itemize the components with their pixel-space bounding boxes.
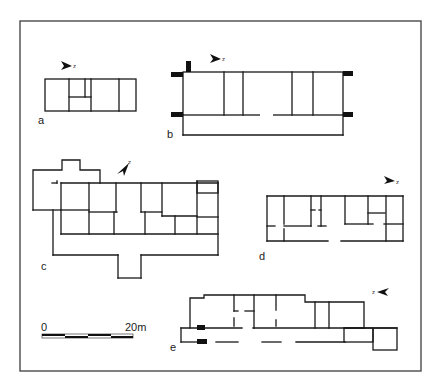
north-label: z xyxy=(396,179,399,185)
plan-b: z b xyxy=(167,54,353,140)
plan-label-b: b xyxy=(167,128,173,140)
north-arrow-icon: z xyxy=(384,176,399,185)
north-label: z xyxy=(73,63,76,69)
scale-bar-segment xyxy=(65,336,88,338)
scale-bar-segment xyxy=(88,334,111,336)
plan-label-d: d xyxy=(259,250,265,262)
scale-end-label: 20m xyxy=(125,321,146,333)
north-label: z xyxy=(222,56,225,62)
plan-label-a: a xyxy=(38,114,45,126)
north-label: z xyxy=(372,289,375,295)
plan-a: z a xyxy=(38,61,136,126)
plan-d: z d xyxy=(259,176,403,262)
scale-start-label: 0 xyxy=(41,321,47,333)
north-arrow-icon: z xyxy=(61,61,76,70)
plan-label-e: e xyxy=(170,341,176,353)
north-label: z xyxy=(128,159,131,165)
scale-bar: 0 20m xyxy=(41,321,146,338)
north-arrow-icon: z xyxy=(372,288,389,296)
wall-piers xyxy=(171,61,353,117)
scale-bar-segment xyxy=(42,334,65,336)
plan-e: z e xyxy=(170,288,397,353)
north-arrow-icon: z xyxy=(210,54,225,63)
scale-bar-segment xyxy=(111,336,133,338)
plan-c: z c xyxy=(33,159,218,278)
plan-label-c: c xyxy=(41,260,47,272)
north-arrow-icon: z xyxy=(117,159,131,176)
floor-plans-figure: z a z b xyxy=(0,0,437,390)
